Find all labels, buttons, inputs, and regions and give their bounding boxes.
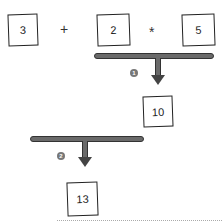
multiply-operator: * <box>149 24 154 40</box>
operand-value: 5 <box>195 24 202 36</box>
operand-card-2: 2 <box>96 13 130 46</box>
operand-value: 2 <box>110 24 117 36</box>
step1-arrow-stem <box>155 58 161 76</box>
step1-arrow-head-icon <box>151 75 165 85</box>
operand-value: 3 <box>20 24 27 36</box>
result-value: 10 <box>152 105 165 117</box>
step2-badge: 2 <box>57 152 65 160</box>
bottom-divider <box>57 220 222 221</box>
step2-arrow-stem <box>82 141 88 158</box>
result-value: 13 <box>76 193 89 205</box>
operand-card-5: 5 <box>181 13 215 46</box>
result-card-13: 13 <box>66 181 98 216</box>
step1-badge: 1 <box>130 69 138 77</box>
result-card-10: 10 <box>142 95 173 127</box>
plus-operator: + <box>60 21 68 37</box>
step1-bracket-bar <box>94 53 214 59</box>
operand-card-3: 3 <box>7 13 38 46</box>
step2-arrow-head-icon <box>78 157 92 167</box>
